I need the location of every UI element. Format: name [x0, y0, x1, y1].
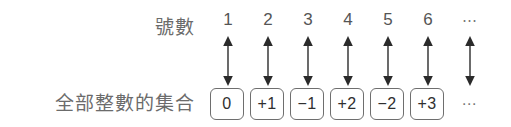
index-number: 5 — [368, 10, 408, 30]
double-headed-arrow-icon — [450, 36, 490, 86]
integer-value-box: −1 — [290, 88, 324, 120]
correspondence-column-continuation: ⋯ ⋯ — [450, 0, 490, 127]
integer-enumeration-diagram: 號數 全部整數的集合 1 0 2 +1 3 — [0, 0, 511, 127]
double-headed-arrow-icon — [408, 36, 448, 86]
integer-value-box: 0 — [210, 88, 244, 120]
correspondence-column: 5 −2 — [368, 0, 408, 127]
value-ellipsis: ⋯ — [450, 88, 490, 120]
integer-value-box: −2 — [370, 88, 404, 120]
index-number: 3 — [288, 10, 328, 30]
row-label-index: 號數 — [155, 18, 195, 37]
correspondence-column: 2 +1 — [248, 0, 288, 127]
double-headed-arrow-icon — [248, 36, 288, 86]
correspondence-column: 3 −1 — [288, 0, 328, 127]
index-number: 1 — [208, 10, 248, 30]
correspondence-column: 6 +3 — [408, 0, 448, 127]
correspondence-column: 4 +2 — [328, 0, 368, 127]
index-ellipsis: ⋯ — [450, 10, 490, 30]
integer-value-box: +1 — [250, 88, 284, 120]
double-headed-arrow-icon — [288, 36, 328, 86]
double-headed-arrow-icon — [208, 36, 248, 86]
index-number: 4 — [328, 10, 368, 30]
double-headed-arrow-icon — [328, 36, 368, 86]
double-headed-arrow-icon — [368, 36, 408, 86]
integer-value-box: +2 — [330, 88, 364, 120]
index-number: 6 — [408, 10, 448, 30]
integer-value-box: +3 — [410, 88, 444, 120]
index-number: 2 — [248, 10, 288, 30]
correspondence-column: 1 0 — [208, 0, 248, 127]
row-label-integer-set: 全部整數的集合 — [55, 94, 195, 113]
